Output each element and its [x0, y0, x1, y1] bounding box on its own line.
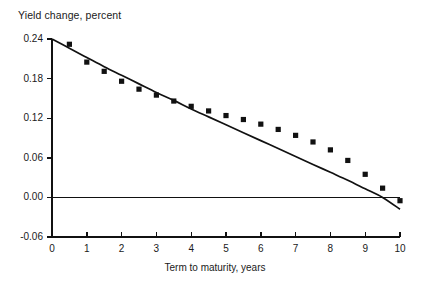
- fitted-curve-layer: [52, 39, 400, 209]
- data-point-marker: [363, 172, 368, 177]
- x-axis-label: Term to maturity, years: [0, 262, 430, 273]
- axis-layer: [47, 39, 400, 237]
- data-point-marker: [276, 127, 281, 132]
- y-tick-label: 0.06: [3, 152, 43, 163]
- data-point-marker: [293, 133, 298, 138]
- y-tick-label: -0.06: [3, 231, 43, 242]
- data-point-marker: [397, 198, 402, 203]
- chart-plot-area: [0, 0, 430, 284]
- data-point-marker: [102, 69, 107, 74]
- data-point-marker: [258, 122, 263, 127]
- data-point-marker: [171, 98, 176, 103]
- data-point-marker: [328, 147, 333, 152]
- data-point-marker: [67, 42, 72, 47]
- y-tick-label: 0.00: [3, 191, 43, 202]
- x-tick-label: 6: [251, 243, 271, 254]
- y-tick-label: 0.24: [3, 33, 43, 44]
- data-point-marker: [310, 139, 315, 144]
- data-point-marker: [206, 108, 211, 113]
- x-tick-label: 9: [355, 243, 375, 254]
- x-tick-label: 7: [286, 243, 306, 254]
- y-tick-label: 0.12: [3, 112, 43, 123]
- data-marker-layer: [67, 42, 403, 204]
- x-tick-label: 2: [112, 243, 132, 254]
- y-tick-label: 0.18: [3, 73, 43, 84]
- x-tick-label: 4: [181, 243, 201, 254]
- fitted-curve: [52, 39, 400, 209]
- x-tick-label: 1: [77, 243, 97, 254]
- data-point-marker: [345, 158, 350, 163]
- x-tick-label: 0: [42, 243, 62, 254]
- data-point-marker: [189, 104, 194, 109]
- data-point-marker: [154, 93, 159, 98]
- data-point-marker: [241, 117, 246, 122]
- data-point-marker: [84, 60, 89, 65]
- x-tick-label: 8: [320, 243, 340, 254]
- data-point-marker: [119, 79, 124, 84]
- x-tick-label: 5: [216, 243, 236, 254]
- chart-container: Yield change, percent 0.240.180.120.060.…: [0, 0, 430, 284]
- data-point-marker: [380, 186, 385, 191]
- x-tick-label: 3: [146, 243, 166, 254]
- data-point-marker: [136, 87, 141, 92]
- data-point-marker: [223, 113, 228, 118]
- x-tick-label: 10: [390, 243, 410, 254]
